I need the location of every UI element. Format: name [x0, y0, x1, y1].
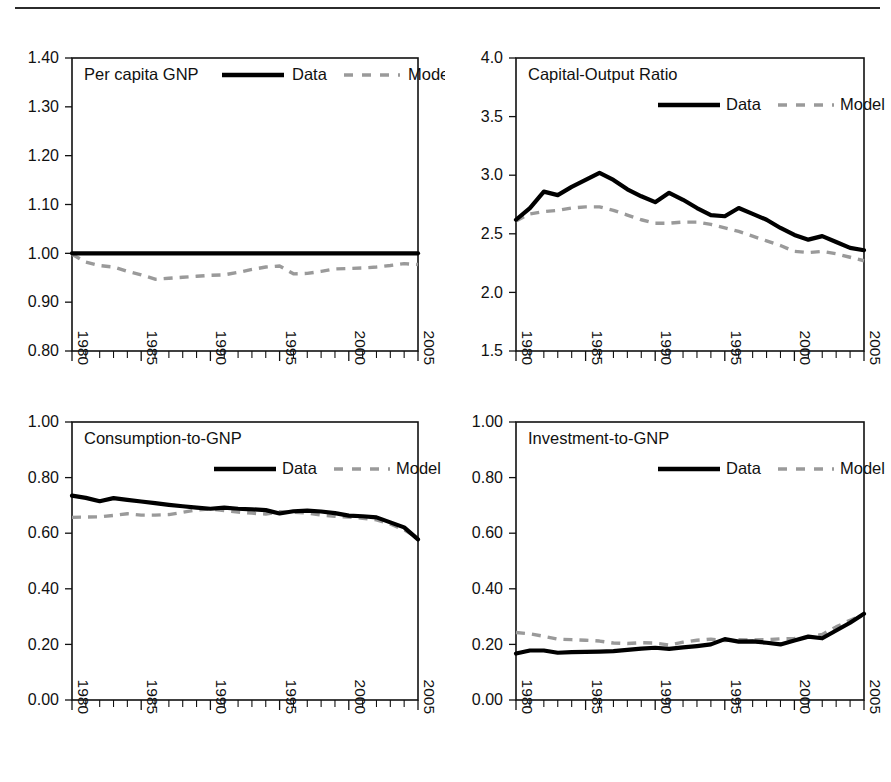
chart-investment-to-gnp: 0.000.200.400.600.801.001980198519901995…: [446, 404, 891, 782]
legend-label-model: Model: [840, 95, 885, 113]
chart-legend: Capital-Output RatioDataModel: [528, 65, 885, 113]
chart-panel-consumption-to-gnp: 0.000.200.400.600.801.001980198519901995…: [0, 404, 445, 782]
x-tick-label: 2005: [867, 680, 884, 714]
y-tick-label: 0.20: [28, 636, 59, 653]
chart-legend: Per capita GNPDataModel: [84, 65, 445, 83]
x-tick-label: 1985: [144, 331, 161, 365]
x-tick-label: 1990: [658, 680, 675, 715]
y-tick-label: 0.80: [28, 469, 59, 486]
x-tick-label: 1980: [75, 680, 92, 715]
chart-title: Per capita GNP: [84, 65, 199, 83]
y-tick-label: 4.0: [481, 49, 503, 66]
chart-title: Capital-Output Ratio: [528, 65, 678, 83]
x-tick-label: 1985: [589, 331, 606, 365]
series-line-model: [72, 254, 418, 279]
chart-legend: Investment-to-GNPDataModel: [528, 429, 885, 477]
x-tick-label: 1990: [658, 331, 675, 366]
plot-frame: [516, 422, 864, 700]
x-tick-label: 2005: [421, 680, 438, 714]
chart-panel-investment-to-gnp: 0.000.200.400.600.801.001980198519901995…: [446, 404, 891, 782]
y-tick-label: 0.90: [28, 293, 59, 310]
x-tick-label: 1990: [213, 331, 230, 366]
legend-label-model: Model: [396, 459, 441, 477]
plot-frame: [72, 422, 418, 700]
y-tick-label: 0.40: [472, 580, 503, 597]
x-tick-label: 1995: [728, 680, 745, 714]
y-tick-label: 1.20: [28, 147, 59, 164]
chart-title: Consumption-to-GNP: [84, 429, 242, 447]
x-tick-label: 2000: [352, 331, 369, 366]
y-tick-label: 1.00: [28, 245, 59, 262]
chart-per-capita-gnp: 0.800.901.001.101.201.301.40198019851990…: [0, 20, 445, 400]
y-tick-label: 0.60: [28, 524, 59, 541]
x-tick-label: 2000: [797, 680, 814, 715]
y-tick-label: 0.80: [28, 342, 59, 359]
x-tick-label: 1980: [75, 331, 92, 366]
x-tick-label: 1995: [283, 680, 300, 714]
x-tick-label: 1985: [144, 680, 161, 714]
legend-label-data: Data: [292, 65, 328, 83]
header-rule: [15, 7, 880, 9]
series-line-model: [72, 509, 418, 538]
y-tick-label: 1.00: [28, 413, 59, 430]
series-line-data: [516, 173, 864, 250]
chart-panel-per-capita-gnp: 0.800.901.001.101.201.301.40198019851990…: [0, 20, 445, 400]
y-tick-label: 1.5: [481, 342, 503, 359]
y-tick-label: 2.5: [481, 225, 503, 242]
y-tick-label: 1.00: [472, 413, 503, 430]
y-tick-label: 2.0: [481, 284, 503, 301]
y-tick-label: 1.40: [28, 49, 59, 66]
y-tick-label: 1.30: [28, 98, 59, 115]
x-tick-label: 1980: [519, 680, 536, 715]
y-tick-label: 1.10: [28, 196, 59, 213]
y-tick-label: 0.00: [28, 691, 59, 708]
x-tick-label: 2005: [867, 331, 884, 365]
x-tick-label: 2005: [421, 331, 438, 365]
series-line-data: [72, 496, 418, 540]
x-tick-label: 1985: [589, 680, 606, 714]
legend-label-data: Data: [282, 459, 318, 477]
y-tick-label: 0.40: [28, 580, 59, 597]
chart-capital-output-ratio: 1.52.02.53.03.54.01980198519901995200020…: [446, 20, 891, 400]
legend-label-data: Data: [726, 459, 762, 477]
series-line-model: [516, 614, 864, 645]
y-tick-label: 0.80: [472, 469, 503, 486]
y-tick-label: 3.0: [481, 166, 503, 183]
chart-title: Investment-to-GNP: [528, 429, 669, 447]
x-tick-label: 1995: [283, 331, 300, 365]
legend-label-model: Model: [408, 65, 445, 83]
legend-label-model: Model: [840, 459, 885, 477]
x-tick-label: 2000: [352, 680, 369, 715]
chart-consumption-to-gnp: 0.000.200.400.600.801.001980198519901995…: [0, 404, 445, 782]
x-tick-label: 2000: [797, 331, 814, 366]
x-tick-label: 1995: [728, 331, 745, 365]
legend-label-data: Data: [726, 95, 762, 113]
chart-legend: Consumption-to-GNPDataModel: [84, 429, 441, 477]
y-tick-label: 0.00: [472, 691, 503, 708]
y-tick-label: 0.20: [472, 636, 503, 653]
y-tick-label: 0.60: [472, 524, 503, 541]
series-line-model: [516, 207, 864, 261]
y-tick-label: 3.5: [481, 108, 503, 125]
series-line-data: [516, 614, 864, 654]
chart-panel-capital-output-ratio: 1.52.02.53.03.54.01980198519901995200020…: [446, 20, 891, 400]
x-tick-label: 1980: [519, 331, 536, 366]
x-tick-label: 1990: [213, 680, 230, 715]
plot-frame: [72, 58, 418, 351]
